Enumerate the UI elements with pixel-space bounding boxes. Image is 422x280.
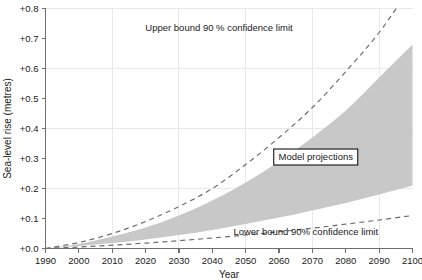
x-tick-label: 2080 (335, 255, 356, 266)
y-tick-label: +0.3 (20, 153, 39, 164)
upper-bound-label: Upper bound 90 % confidence limit (145, 22, 293, 33)
y-tick-label: +0.4 (20, 123, 39, 134)
x-tick-label: 2000 (68, 255, 89, 266)
x-tick-label: 2050 (235, 255, 256, 266)
y-tick-label: +0.6 (20, 63, 39, 74)
sea-level-rise-chart: +0.0+0.1+0.2+0.3+0.4+0.5+0.6+0.7+0.8 199… (0, 0, 422, 280)
x-tick-label: 2070 (302, 255, 323, 266)
x-tick-label: 2020 (135, 255, 156, 266)
y-tick-label: +0.0 (20, 243, 39, 254)
x-tick-label: 2030 (168, 255, 189, 266)
y-axis-title: Sea-level rise (metres) (2, 78, 13, 179)
y-tick-label: +0.2 (20, 183, 39, 194)
x-tick-label: 2060 (268, 255, 289, 266)
chart-canvas: +0.0+0.1+0.2+0.3+0.4+0.5+0.6+0.7+0.8 199… (0, 0, 422, 280)
y-tick-label: +0.5 (20, 93, 39, 104)
x-tick-label: 2100 (402, 255, 422, 266)
model-projections-label: Model projections (279, 151, 354, 162)
x-tick-label: 1990 (35, 255, 56, 266)
y-tick-label: +0.1 (20, 213, 39, 224)
x-tick-label: 2010 (102, 255, 123, 266)
top-clip-mask (0, 0, 422, 6)
x-axis-title: Year (219, 269, 240, 280)
y-tick-label: +0.7 (20, 33, 39, 44)
lower-bound-label: Lower bound 90% confidence limit (233, 226, 378, 237)
x-tick-label: 2040 (202, 255, 223, 266)
y-tick-labels: +0.0+0.1+0.2+0.3+0.4+0.5+0.6+0.7+0.8 (20, 3, 39, 254)
x-tick-label: 2090 (369, 255, 390, 266)
